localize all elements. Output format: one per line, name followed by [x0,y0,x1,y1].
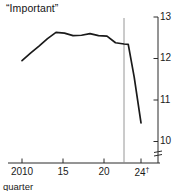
x-axis-label-2024-marker: † [146,166,150,173]
x-axis-label-2015: 15 [57,166,68,177]
y-axis-label-12: 12 [160,52,171,63]
x-axis-label-2024-text: 24 [134,167,145,178]
chart-plot-area [0,0,179,191]
data-series-line [22,32,141,122]
y-axis-label-13: 13 [160,11,171,22]
chart-container: “Important” 13 12 11 10 2010 15 20 24† q… [0,0,179,191]
y-axis-label-11: 11 [160,94,170,105]
x-axis-label-2010: 2010 [11,166,33,177]
x-axis-label-2024: 24† [134,166,149,178]
x-axis-label-2020: 20 [98,166,109,177]
x-axis-title: quarter [3,181,33,191]
y-axis-label-10: 10 [160,135,171,146]
